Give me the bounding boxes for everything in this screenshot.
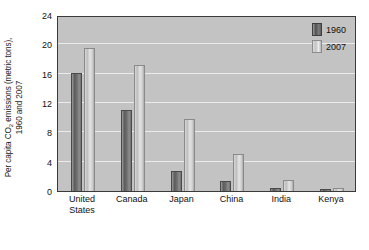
bar-group: [58, 17, 108, 191]
y-tick-label: 12: [42, 99, 52, 109]
x-tick-label-line2: States: [69, 205, 95, 216]
y-tick-label: 8: [47, 128, 52, 138]
bar-2007[interactable]: [233, 154, 244, 191]
y-axis-title-subscript: 2: [8, 124, 14, 127]
bar-group: [208, 17, 258, 191]
bar-1960[interactable]: [320, 189, 331, 191]
x-tick-label: UnitedStates: [69, 194, 95, 216]
legend-label-1960: 1960: [326, 25, 346, 35]
y-axis-title-text: Per capita CO2 emissions (metric tons), …: [5, 38, 26, 178]
bar-2007[interactable]: [84, 48, 95, 191]
plot-area: 1960 2007: [57, 16, 356, 192]
legend-swatch-1960-icon: [312, 23, 322, 36]
legend-swatch-2007-icon: [312, 40, 322, 53]
bar-1960[interactable]: [171, 171, 182, 191]
y-tick-label: 24: [42, 11, 52, 21]
y-tick-label: 20: [42, 40, 52, 50]
x-tick-label-line1: Japan: [169, 194, 194, 204]
bar-group: [158, 17, 208, 191]
bar-1960[interactable]: [220, 181, 231, 191]
bar-series-container: [58, 17, 355, 191]
x-tick-label-line1: India: [271, 194, 291, 204]
x-tick-label-line1: Kenya: [318, 194, 344, 204]
bar-group: [108, 17, 158, 191]
legend-item-1960: 1960: [312, 23, 346, 36]
legend-item-2007: 2007: [312, 40, 346, 53]
y-tick-label: 4: [47, 158, 52, 168]
x-tick-label: India: [271, 194, 291, 205]
legend-label-2007: 2007: [326, 42, 346, 52]
chart-figure: Per capita CO2 emissions (metric tons), …: [0, 0, 369, 250]
bar-group: [257, 17, 307, 191]
x-tick-label-line1: Canada: [116, 194, 148, 204]
y-tick-label: 0: [47, 187, 52, 197]
y-axis-title-line2: 1960 and 2007: [15, 38, 26, 178]
bar-2007[interactable]: [333, 188, 344, 191]
y-tick-label: 16: [42, 70, 52, 80]
x-axis-labels: UnitedStatesCanadaJapanChinaIndiaKenya: [57, 194, 356, 234]
x-tick-label-line1: United: [69, 194, 95, 204]
x-tick-label: Kenya: [318, 194, 344, 205]
x-tick-label-line1: China: [220, 194, 244, 204]
x-tick-label: Canada: [116, 194, 148, 205]
x-tick-label: China: [220, 194, 244, 205]
y-axis-title-part2: emissions (metric tons),: [5, 38, 14, 124]
legend: 1960 2007: [312, 23, 346, 57]
bar-1960[interactable]: [71, 73, 82, 191]
x-tick-label: Japan: [169, 194, 194, 205]
bar-1960[interactable]: [270, 188, 281, 191]
bar-2007[interactable]: [134, 65, 145, 191]
y-axis-title-part1: Per capita CO: [5, 127, 14, 177]
y-axis-ticks: 04812162024: [26, 0, 56, 215]
bar-2007[interactable]: [184, 119, 195, 191]
bar-1960[interactable]: [121, 110, 132, 191]
bar-2007[interactable]: [283, 180, 294, 191]
